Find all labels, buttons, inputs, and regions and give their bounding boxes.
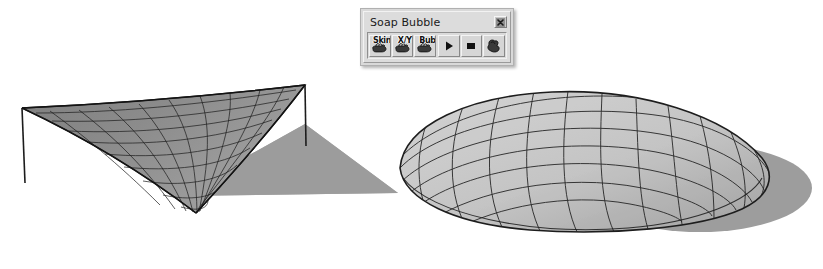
soap-bubble-toolwindow[interactable]: Soap Bubble Ski xyxy=(360,8,514,66)
xy-button[interactable]: X/Y xyxy=(392,35,414,57)
toolwindow-inner: Soap Bubble Ski xyxy=(363,11,511,63)
hand-xy-icon xyxy=(393,37,413,55)
stop-icon xyxy=(464,39,478,53)
titlebar[interactable]: Soap Bubble xyxy=(364,12,510,31)
window-title: Soap Bubble xyxy=(370,16,440,29)
stop-button[interactable] xyxy=(461,35,483,57)
hand-grab-icon xyxy=(484,37,504,55)
soap-bubble-dome[interactable] xyxy=(400,91,770,235)
play-icon xyxy=(442,39,456,53)
bub-button[interactable]: Bub xyxy=(414,35,436,57)
hand-skin-icon xyxy=(370,37,390,55)
app-screenshot: Soap Bubble Ski xyxy=(0,0,823,269)
hand-bubble-icon xyxy=(415,37,435,55)
close-icon[interactable] xyxy=(494,16,507,28)
play-button[interactable] xyxy=(438,35,460,57)
grab-button[interactable] xyxy=(483,35,505,57)
skin-button[interactable]: Skin xyxy=(369,35,391,57)
toolbar-button-row[interactable]: Skin X/Y xyxy=(367,32,507,59)
